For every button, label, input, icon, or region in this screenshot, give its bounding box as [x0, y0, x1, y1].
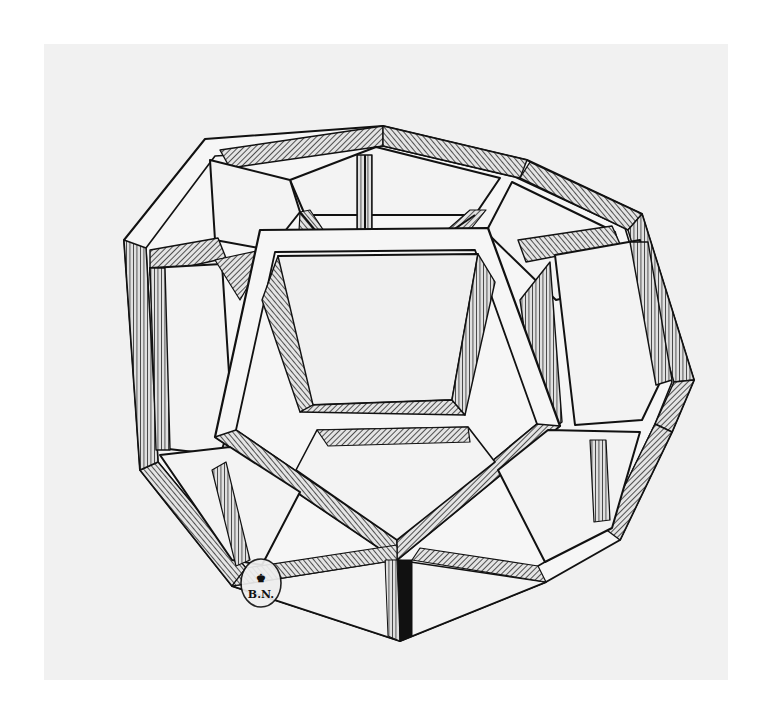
stamp-text: B.N. [248, 588, 274, 601]
dodecahedron-illustration: ♚ B.N. [0, 0, 757, 721]
stamp-emblem-icon: ♚ [256, 572, 266, 585]
library-stamp: ♚ B.N. [241, 559, 281, 607]
